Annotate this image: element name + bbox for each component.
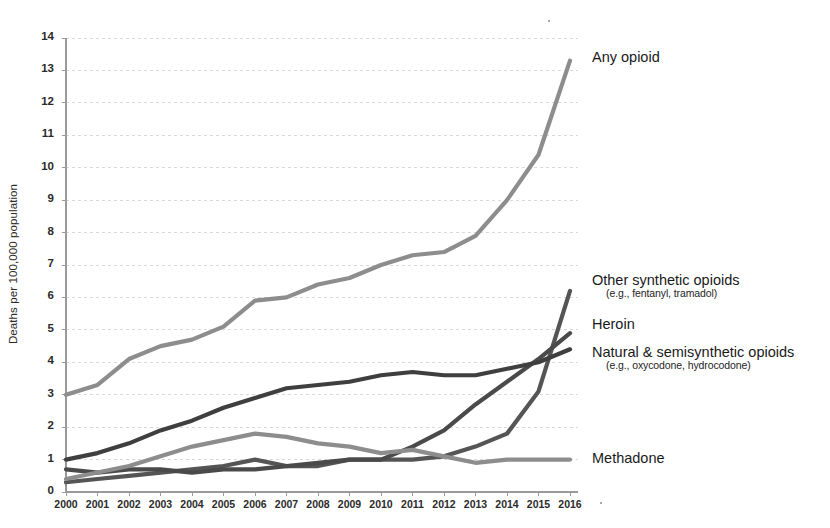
series-label-text: Natural & semisynthetic opioids: [592, 344, 794, 360]
series-lines: [66, 61, 570, 483]
series-label-text: Heroin: [592, 316, 635, 332]
series-label-text: Other synthetic opioids: [592, 272, 740, 288]
stray-speck: [600, 502, 602, 504]
series-label-text: Methadone: [592, 450, 665, 466]
series-label-sublabel: (e.g., oxycodone, hydrocodone): [592, 360, 794, 372]
series-label-heroin: Heroin: [592, 316, 635, 332]
series-label-sublabel: (e.g., fentanyl, tramadol): [592, 288, 740, 300]
series-label-other-synthetic-opioids: Other synthetic opioids(e.g., fentanyl, …: [592, 272, 740, 300]
opioid-death-rate-line-chart: Deaths per 100,000 population 0123456789…: [0, 0, 830, 528]
series-label-natural-semisynthetic-opioids: Natural & semisynthetic opioids(e.g., ox…: [592, 344, 794, 372]
stray-speck: [548, 20, 550, 22]
plot-area: [0, 0, 830, 528]
series-label-any-opioid: Any opioid: [592, 49, 660, 65]
series-label-methadone: Methadone: [592, 450, 665, 466]
series-line-any-opioid: [66, 61, 570, 395]
series-label-text: Any opioid: [592, 49, 660, 65]
gridlines: [66, 38, 578, 460]
